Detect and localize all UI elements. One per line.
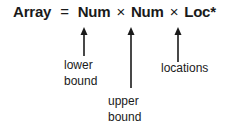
- label-locations-text: locations: [161, 60, 208, 76]
- arrow-lower-bound-icon: [81, 27, 88, 56]
- label-locations: locations: [161, 60, 208, 76]
- label-upper-bound-text: upper bound: [108, 93, 148, 125]
- label-upper-bound: upper bound: [108, 93, 148, 125]
- arrow-upper-bound-icon: [128, 27, 135, 88]
- label-lower-bound: lower bound: [64, 57, 104, 89]
- label-lower-bound-text: lower bound: [64, 57, 104, 89]
- arrow-locations-icon: [175, 27, 182, 62]
